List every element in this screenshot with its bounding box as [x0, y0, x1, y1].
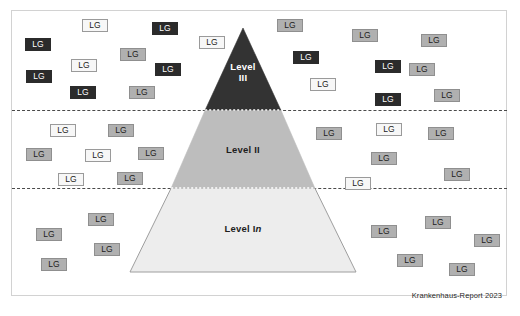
- lg-chip[interactable]: LG: [108, 124, 134, 137]
- lg-chip[interactable]: LG: [409, 63, 435, 76]
- lg-chip[interactable]: LG: [88, 213, 114, 226]
- lg-chip[interactable]: LG: [94, 243, 120, 256]
- lg-chip[interactable]: LG: [138, 147, 164, 160]
- lg-chip[interactable]: LG: [85, 149, 111, 162]
- lg-chip[interactable]: LG: [71, 59, 97, 72]
- divider-level3-level2: [12, 110, 507, 111]
- lg-chip[interactable]: LG: [474, 234, 500, 247]
- lg-chip[interactable]: LG: [36, 228, 62, 241]
- lg-chip[interactable]: LG: [41, 258, 67, 271]
- lg-chip[interactable]: LG: [425, 216, 451, 229]
- figure-canvas: Level III Level II Level In LGLGLGLGLGLG…: [0, 0, 520, 316]
- lg-chip[interactable]: LG: [352, 29, 378, 42]
- lg-chip[interactable]: LG: [293, 51, 319, 64]
- lg-chip[interactable]: LG: [375, 93, 401, 106]
- lg-chip[interactable]: LG: [376, 123, 402, 136]
- lg-chip[interactable]: LG: [428, 127, 454, 140]
- lg-chip[interactable]: LG: [444, 168, 470, 181]
- lg-chip[interactable]: LG: [129, 86, 155, 99]
- lg-chip[interactable]: LG: [25, 38, 51, 51]
- lg-chip[interactable]: LG: [371, 152, 397, 165]
- lg-chip[interactable]: LG: [421, 34, 447, 47]
- lg-chip[interactable]: LG: [26, 148, 52, 161]
- lg-chip[interactable]: LG: [117, 172, 143, 185]
- lg-chip[interactable]: LG: [310, 78, 336, 91]
- lg-chip[interactable]: LG: [155, 63, 181, 76]
- lg-chip[interactable]: LG: [70, 86, 96, 99]
- lg-chip[interactable]: LG: [58, 173, 84, 186]
- divider-level2-level1: [12, 188, 507, 189]
- lg-chip[interactable]: LG: [449, 263, 475, 276]
- lg-chip[interactable]: LG: [345, 177, 371, 190]
- lg-chip[interactable]: LG: [277, 19, 303, 32]
- lg-chip[interactable]: LG: [375, 60, 401, 73]
- lg-chip[interactable]: LG: [316, 127, 342, 140]
- lg-chip[interactable]: LG: [397, 254, 423, 267]
- lg-chip[interactable]: LG: [26, 70, 52, 83]
- source-note: Krankenhaus-Report 2023: [412, 291, 502, 300]
- lg-chip[interactable]: LG: [152, 22, 178, 35]
- lg-chip[interactable]: LG: [371, 225, 397, 238]
- lg-chip[interactable]: LG: [50, 124, 76, 137]
- lg-chip[interactable]: LG: [199, 36, 225, 49]
- lg-chip[interactable]: LG: [82, 19, 108, 32]
- lg-chip[interactable]: LG: [120, 48, 146, 61]
- lg-chip[interactable]: LG: [434, 89, 460, 102]
